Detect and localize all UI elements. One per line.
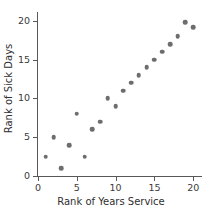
- data-point: [175, 34, 180, 39]
- data-point: [59, 166, 64, 171]
- data-point: [144, 65, 149, 70]
- x-tick-mark: [38, 177, 39, 181]
- data-point: [191, 25, 196, 30]
- data-point: [67, 143, 72, 148]
- x-tick-label: 15: [148, 183, 160, 193]
- x-tick-label: 10: [110, 183, 122, 193]
- y-tick-mark: [33, 60, 37, 61]
- data-point: [121, 88, 126, 93]
- x-axis-line: [37, 176, 202, 177]
- y-tick-label: 5: [24, 132, 30, 142]
- y-tick-label: 10: [18, 94, 30, 104]
- x-tick-label: 20: [187, 183, 199, 193]
- y-tick-label: 0: [24, 171, 30, 181]
- x-tick-mark: [154, 177, 155, 181]
- y-tick-mark: [33, 137, 37, 138]
- data-point: [75, 112, 80, 117]
- data-point: [129, 81, 134, 86]
- y-tick-mark: [33, 176, 37, 177]
- data-point: [82, 154, 87, 159]
- y-axis-title: Rank of Sick Days: [2, 0, 16, 176]
- x-tick-mark: [193, 177, 194, 181]
- data-point: [160, 50, 165, 55]
- data-point: [152, 57, 157, 62]
- data-point: [168, 42, 173, 47]
- x-tick-label: 5: [74, 183, 80, 193]
- data-point: [113, 104, 118, 109]
- y-tick-mark: [33, 98, 37, 99]
- data-point: [43, 154, 48, 159]
- data-point: [137, 73, 142, 78]
- x-tick-mark: [116, 177, 117, 181]
- data-point: [98, 119, 103, 124]
- x-axis-title: Rank of Years Service: [0, 196, 222, 207]
- data-point: [106, 96, 111, 101]
- x-tick-label: 0: [35, 183, 41, 193]
- y-axis-title-text: Rank of Sick Days: [4, 43, 15, 133]
- data-point: [51, 135, 56, 140]
- y-tick-label: 20: [18, 16, 30, 26]
- scatter-plot-figure: 0510152005101520 Rank of Years Service R…: [0, 0, 222, 213]
- y-tick-label: 15: [18, 55, 30, 65]
- data-point: [90, 127, 95, 132]
- data-point: [183, 20, 188, 25]
- x-tick-mark: [77, 177, 78, 181]
- y-tick-mark: [33, 21, 37, 22]
- y-axis-line: [37, 12, 38, 177]
